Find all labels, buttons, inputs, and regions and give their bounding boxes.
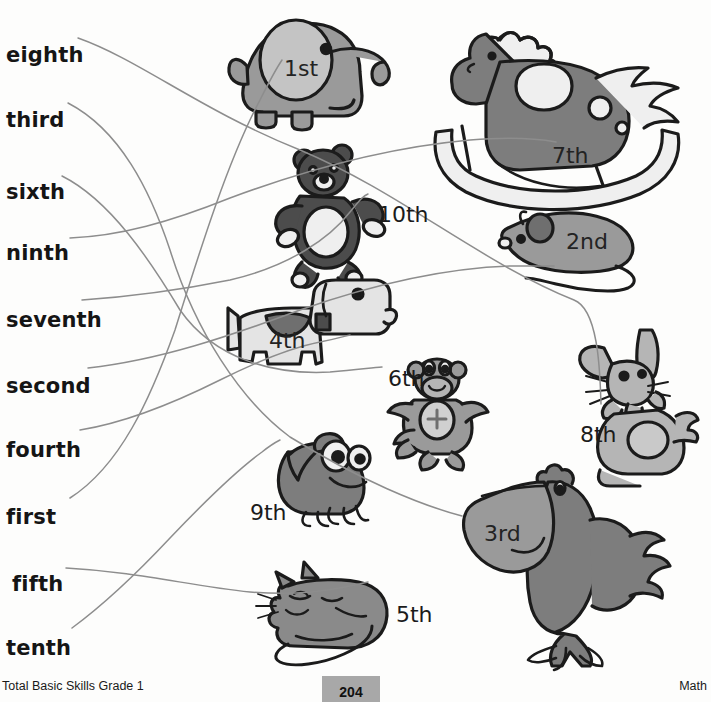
ordinal-label-mouse: 2nd: [566, 229, 608, 254]
word-tenth[interactable]: tenth: [6, 636, 71, 660]
ordinal-label-frog: 9th: [250, 500, 287, 525]
word-seventh[interactable]: seventh: [6, 308, 102, 332]
toy-teddy-bear: [275, 145, 387, 287]
page-number: 204: [322, 684, 380, 700]
footer-book-title: Total Basic Skills Grade 1: [2, 679, 144, 693]
ordinal-label-rabbit: 8th: [580, 422, 617, 447]
word-third[interactable]: third: [6, 108, 65, 132]
toy-artwork-layer: [0, 0, 711, 702]
word-fourth[interactable]: fourth: [6, 438, 81, 462]
footer-subject: Math: [679, 679, 707, 693]
ordinal-label-teddy-bear: 10th: [378, 202, 429, 227]
toy-rocking-horse: [435, 33, 679, 210]
word-eighth[interactable]: eighth: [6, 43, 84, 67]
toy-dog: [228, 280, 397, 364]
ordinal-label-cat: 5th: [396, 602, 433, 627]
ordinal-label-dog: 4th: [269, 328, 306, 353]
page-footer: Total Basic Skills Grade 1 204 Math: [0, 668, 711, 702]
ordinal-label-elephant: 1st: [284, 56, 318, 81]
toy-frog: [278, 434, 370, 526]
word-second[interactable]: second: [6, 374, 91, 398]
toy-rabbit: [580, 330, 698, 486]
toy-pelican: [464, 465, 670, 670]
word-sixth[interactable]: sixth: [6, 180, 65, 204]
word-fifth[interactable]: fifth: [12, 572, 63, 596]
word-first[interactable]: first: [6, 505, 56, 529]
ordinal-label-monkey: 6th: [388, 366, 425, 391]
ordinal-label-rocking-horse: 7th: [552, 143, 589, 168]
toy-cat: [256, 562, 387, 665]
word-ninth[interactable]: ninth: [6, 241, 69, 265]
ordinal-label-pelican: 3rd: [484, 521, 521, 546]
worksheet-sheet: eighththirdsixthninthseventhsecondfourth…: [0, 0, 711, 702]
